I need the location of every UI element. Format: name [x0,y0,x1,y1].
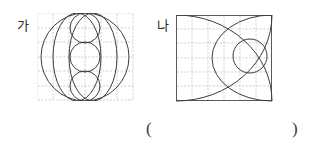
answer-paren-open: ( [146,120,152,137]
answer-paren-close: ) [292,120,298,137]
figure-b-diagram [176,15,274,103]
figure-b-label: 나 [157,19,169,32]
figure-a-diagram [37,13,135,101]
grid-lines-b [177,16,271,100]
grid-lines-a [37,13,133,100]
figure-a-label: 가 [17,19,29,32]
figure-canvas: 가 나 [0,0,314,150]
right-small-circle [233,39,267,73]
